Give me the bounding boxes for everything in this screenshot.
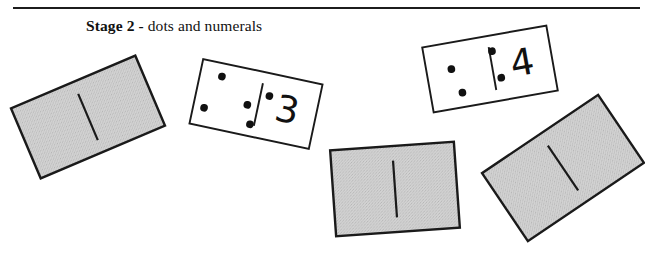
card-face-four[interactable]: 4 — [422, 26, 558, 113]
card-face-surface — [422, 26, 558, 113]
domino-cards-illustration: 34 — [0, 0, 645, 261]
card-face-three[interactable]: 3 — [189, 59, 322, 149]
card-face-surface — [189, 59, 322, 149]
card-back-right[interactable] — [482, 95, 644, 241]
card-back-center[interactable] — [330, 142, 460, 236]
stage-2-figure: Stage 2 - dots and numerals 34 — [0, 0, 645, 261]
card-back-left[interactable] — [11, 56, 165, 179]
